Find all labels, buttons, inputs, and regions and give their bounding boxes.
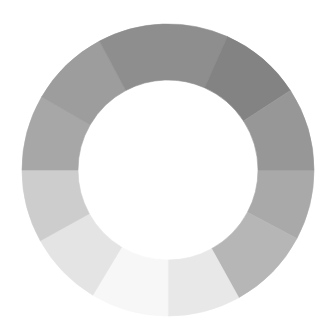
segmented-ring (0, 0, 329, 327)
ring-segments (22, 24, 314, 316)
